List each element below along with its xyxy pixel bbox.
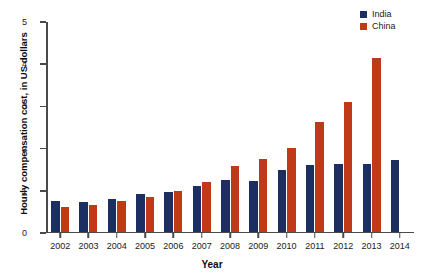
bar-india-2008 — [221, 180, 230, 231]
y-tick-mark — [40, 190, 46, 192]
bar-india-2003 — [79, 202, 88, 232]
x-tick-label: 2005 — [135, 241, 155, 251]
y-tick-label: 3 — [22, 101, 37, 111]
x-tick-label: 2002 — [50, 241, 70, 251]
x-tick-label: 2003 — [78, 241, 98, 251]
y-tick-mark — [40, 106, 46, 108]
x-tick-label: 2007 — [192, 241, 212, 251]
y-axis-line — [46, 22, 48, 233]
legend-label: India — [372, 10, 392, 19]
x-tick-mark — [258, 233, 260, 238]
y-tick-label: 1 — [22, 186, 37, 196]
bar-india-2005 — [136, 194, 145, 232]
y-tick-label: 0 — [22, 228, 37, 238]
bar-india-2013 — [363, 164, 372, 232]
bar-chart: IndiaChina Hourly compensation cost, in … — [0, 0, 424, 277]
x-tick-label: 2011 — [305, 241, 324, 251]
legend-item: India — [360, 10, 396, 19]
y-tick-mark — [40, 63, 46, 65]
y-tick-mark — [40, 148, 46, 150]
x-tick-mark — [314, 233, 316, 238]
x-tick-mark — [399, 233, 401, 238]
bar-india-2010 — [278, 170, 287, 232]
x-tick-mark — [342, 233, 344, 238]
x-tick-mark — [371, 233, 373, 238]
legend-swatch-icon — [360, 11, 367, 18]
x-tick-label: 2006 — [163, 241, 183, 251]
x-tick-label: 2013 — [362, 241, 382, 251]
bar-india-2014 — [391, 160, 400, 232]
bar-china-2010 — [287, 148, 296, 232]
bar-china-2007 — [202, 182, 211, 231]
bar-china-2009 — [259, 159, 268, 232]
x-tick-label: 2004 — [107, 241, 127, 251]
y-tick-mark — [40, 21, 46, 23]
x-tick-mark — [59, 233, 61, 238]
bar-china-2011 — [315, 122, 324, 232]
bar-india-2012 — [334, 164, 343, 231]
x-tick-mark — [201, 233, 203, 238]
bar-china-2013 — [372, 58, 381, 232]
bar-india-2009 — [249, 181, 258, 232]
x-tick-mark — [88, 233, 90, 238]
bar-china-2004 — [117, 201, 126, 231]
bar-china-2002 — [61, 207, 70, 231]
y-tick-mark — [40, 232, 46, 234]
bar-india-2006 — [164, 192, 173, 232]
x-tick-mark — [229, 233, 231, 238]
bar-china-2003 — [89, 205, 98, 231]
bar-china-2006 — [174, 191, 183, 232]
plot-area: 012345 200220032004200520062007200820092… — [46, 22, 414, 233]
bar-india-2011 — [306, 165, 315, 232]
bar-china-2005 — [146, 197, 155, 232]
x-tick-label: 2008 — [220, 241, 240, 251]
bar-india-2004 — [108, 199, 117, 232]
y-tick-label: 5 — [22, 17, 37, 27]
x-axis-title: Year — [0, 259, 424, 270]
x-tick-mark — [116, 233, 118, 238]
x-tick-mark — [173, 233, 175, 238]
bar-china-2008 — [231, 166, 240, 231]
x-tick-label: 2012 — [333, 241, 353, 251]
x-tick-label: 2014 — [390, 241, 410, 251]
y-axis-title: Hourly compensation cost, in US dollars — [18, 9, 29, 239]
x-tick-label: 2010 — [277, 241, 297, 251]
y-tick-label: 2 — [22, 144, 37, 154]
bar-india-2002 — [51, 201, 60, 231]
x-tick-mark — [286, 233, 288, 238]
bar-china-2012 — [344, 102, 353, 232]
y-tick-label: 4 — [22, 59, 37, 69]
bar-india-2007 — [193, 186, 202, 232]
x-tick-mark — [144, 233, 146, 238]
x-tick-label: 2009 — [248, 241, 268, 251]
